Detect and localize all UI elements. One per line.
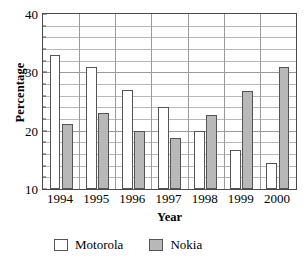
bar-group	[115, 14, 151, 189]
x-axis-tick-labels: 1994199519961997199819992000	[42, 192, 297, 209]
x-tick-label: 1997	[156, 192, 182, 205]
bar-motorola-1997	[158, 107, 169, 189]
bar-motorola-2000	[266, 163, 277, 189]
y-tick-label: 20	[25, 124, 38, 137]
x-tick-label: 1999	[228, 192, 254, 205]
y-tick-label: 10	[25, 183, 38, 196]
gray-square-swatch	[149, 239, 163, 251]
bar-motorola-1998	[194, 131, 205, 189]
bar-nokia-1999	[242, 91, 253, 189]
x-tick-label: 1996	[119, 192, 145, 205]
bar-motorola-1999	[230, 150, 241, 189]
bar-nokia-2000	[279, 67, 290, 190]
bar-group	[79, 14, 115, 189]
bar-chart-figure: Percentage 10203040 19941995199619971998…	[0, 0, 307, 265]
x-tick-label: 1994	[47, 192, 73, 205]
bar-group	[43, 14, 79, 189]
plot-area: 10203040	[42, 13, 297, 190]
legend-label: Motorola	[75, 238, 123, 251]
bar-group	[260, 14, 296, 189]
y-tick-label: 40	[25, 8, 38, 21]
white-square-swatch	[54, 239, 68, 251]
bar-nokia-1998	[206, 115, 217, 189]
chart-legend: MotorolaNokia	[42, 238, 297, 251]
bar-group	[188, 14, 224, 189]
x-axis-title: Year	[42, 210, 297, 225]
bar-group	[224, 14, 260, 189]
x-tick-label: 2000	[264, 192, 290, 205]
bar-nokia-1995	[98, 113, 109, 189]
bar-motorola-1996	[122, 90, 133, 189]
bar-group	[151, 14, 187, 189]
bar-nokia-1996	[134, 131, 145, 189]
x-tick-label: 1998	[192, 192, 218, 205]
y-tick-label: 30	[25, 66, 38, 79]
bar-nokia-1994	[62, 124, 73, 189]
legend-entry-nokia[interactable]: Nokia	[149, 238, 202, 251]
x-tick-label: 1995	[83, 192, 109, 205]
bar-motorola-1995	[86, 67, 97, 190]
legend-label: Nokia	[170, 238, 202, 251]
legend-entry-motorola[interactable]: Motorola	[54, 238, 123, 251]
bar-nokia-1997	[170, 138, 181, 189]
bar-motorola-1994	[50, 55, 61, 189]
